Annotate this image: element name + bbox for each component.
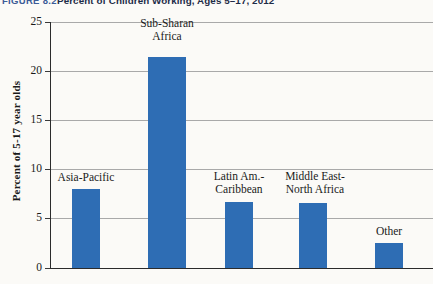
bar-latin-am-caribbean[interactable] — [225, 202, 253, 268]
bar-middle-east-north-africa[interactable] — [299, 203, 327, 268]
bar-label-sub-sharan-africa-line2: Africa — [123, 30, 211, 43]
y-axis-line — [50, 22, 51, 269]
bar-label-middle-east-north-africa-line2: North Africa — [275, 183, 355, 196]
bar-label-latin-am-caribbean-line2: Caribbean — [201, 183, 277, 196]
bar-sub-sharan-africa[interactable] — [148, 57, 186, 268]
bar-label-middle-east-north-africa-line1: Middle East- — [275, 170, 355, 183]
bar-chart: Percent of 5-17 year olds 25 20 15 10 5 … — [0, 0, 433, 284]
y-tick-mark-15 — [45, 120, 50, 121]
bar-label-sub-sharan-africa-line1: Sub-Sharan — [123, 17, 211, 30]
gridline-20 — [50, 71, 433, 72]
gridline-15 — [50, 120, 433, 121]
y-tick-label-0: 0 — [20, 261, 42, 273]
y-tick-label-15: 15 — [20, 113, 42, 125]
bar-label-other: Other — [361, 225, 417, 238]
y-axis-title: Percent of 5-17 year olds — [10, 51, 22, 231]
y-tick-mark-25 — [45, 22, 50, 23]
bar-other[interactable] — [375, 243, 403, 268]
y-tick-label-5: 5 — [20, 211, 42, 223]
gridline-25 — [50, 22, 433, 23]
y-tick-label-20: 20 — [20, 64, 42, 76]
bar-asia-pacific[interactable] — [72, 189, 100, 268]
bar-label-latin-am-caribbean-line1: Latin Am.- — [201, 170, 277, 183]
y-tick-mark-20 — [45, 71, 50, 72]
y-tick-label-10: 10 — [20, 162, 42, 174]
y-tick-mark-5 — [45, 218, 50, 219]
bar-label-asia-pacific: Asia-Pacific — [50, 171, 122, 184]
y-tick-mark-0 — [45, 268, 50, 269]
x-axis-line — [50, 268, 433, 269]
y-tick-label-25: 25 — [20, 15, 42, 27]
y-tick-mark-10 — [45, 169, 50, 170]
